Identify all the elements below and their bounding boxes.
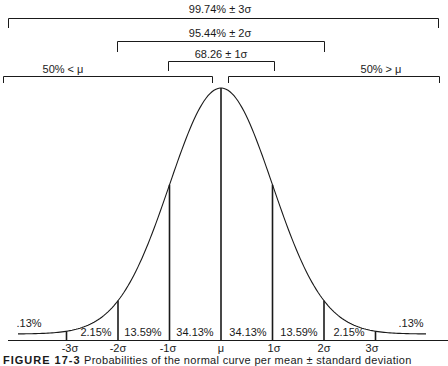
bracket-right-half — [229, 77, 440, 84]
tick-minus-2-sigma: -2σ — [110, 342, 127, 354]
sigma-lines — [67, 88, 376, 340]
figure-caption: FIGURE 17-3 Probabilities of the normal … — [3, 354, 412, 366]
figure-caption-text: Probabilities of the normal curve per me… — [84, 354, 412, 366]
tick-mu: μ — [218, 342, 224, 354]
right-half-label: 50% > μ — [361, 63, 402, 75]
tail-left-label: .13% — [16, 317, 41, 329]
normal-curve — [18, 88, 426, 334]
segment-label: 34.13% — [176, 326, 214, 338]
bracket-1-sigma — [169, 62, 275, 72]
bracket-1-sigma-label: 68.26 ± 1σ — [195, 48, 248, 60]
bracket-left-half — [4, 77, 213, 84]
bracket-3-sigma-label: 99.74% ± 3σ — [189, 3, 252, 15]
tick-minus-1-sigma: -1σ — [160, 342, 177, 354]
segment-label: 34.13% — [229, 326, 267, 338]
tick-1-sigma: 1σ — [268, 342, 281, 354]
segment-label: 13.59% — [280, 326, 318, 338]
tail-right-label: .13% — [398, 317, 423, 329]
figure-number: FIGURE 17-3 — [3, 354, 81, 366]
segment-label: 2.15% — [80, 326, 111, 338]
tick-2-sigma: 2σ — [318, 342, 331, 354]
tick-minus-3-sigma: -3σ — [62, 342, 79, 354]
segment-label: 2.15% — [333, 326, 364, 338]
left-half-label: 50% < μ — [43, 63, 84, 75]
segment-label: 13.59% — [124, 326, 162, 338]
bracket-2-sigma-label: 95.44% ± 2σ — [189, 27, 252, 39]
tick-3-sigma: 3σ — [366, 342, 379, 354]
